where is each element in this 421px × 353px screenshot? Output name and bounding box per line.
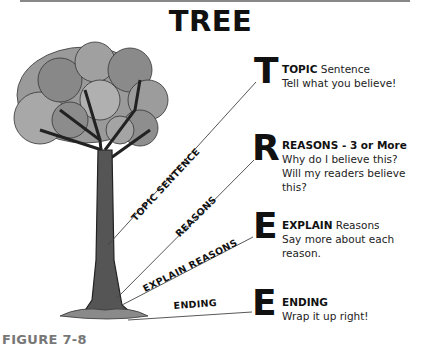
letter-t: T [254,53,279,89]
tree-foliage [14,42,168,146]
step-reasons: REASONS - 3 or More Why do I believe thi… [282,138,421,194]
step-ending: ENDING Wrap it up right! [282,295,369,323]
step-explain: EXPLAIN Reasons Say more about each reas… [282,218,421,260]
tree-trunk [84,150,130,312]
figure-caption: FIGURE 7-8 [2,332,87,347]
letter-e-ending: E [252,285,277,321]
letter-r: R [252,130,280,166]
letter-e-explain: E [253,208,278,244]
step-topic: TOPIC Sentence Tell what you believe! [282,62,396,90]
tree-ground [60,309,148,319]
